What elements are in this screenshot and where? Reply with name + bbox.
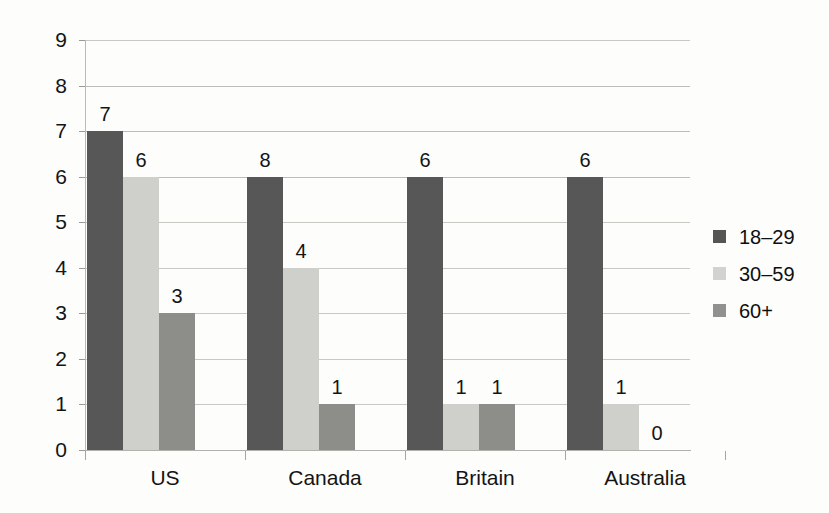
bar <box>123 177 159 450</box>
y-axis-label: 9 <box>27 29 67 50</box>
bar <box>247 177 283 450</box>
x-axis-label: Britain <box>405 466 565 490</box>
legend-label: 30–59 <box>739 264 795 284</box>
bar <box>283 268 319 450</box>
x-axis-tick <box>725 451 726 460</box>
x-axis-label: US <box>85 466 245 490</box>
legend-item: 18–29 <box>713 218 795 255</box>
bar <box>443 404 479 450</box>
bar <box>603 404 639 450</box>
y-axis-label: 4 <box>27 257 67 278</box>
legend-label: 60+ <box>739 301 773 321</box>
bar <box>87 131 123 450</box>
x-axis-line <box>85 450 691 451</box>
bar-value-label: 1 <box>479 377 515 397</box>
y-axis-label: 7 <box>27 120 67 141</box>
x-axis-tick <box>405 451 406 460</box>
bar <box>407 177 443 450</box>
bar-value-label: 1 <box>319 377 355 397</box>
bar-value-label: 0 <box>639 423 675 443</box>
bar-value-label: 7 <box>87 104 123 124</box>
x-axis-tick <box>245 451 246 460</box>
x-axis-label: Australia <box>565 466 725 490</box>
bar-value-label: 6 <box>567 150 603 170</box>
y-axis-label: 6 <box>27 166 67 187</box>
legend-label: 18–29 <box>739 227 795 247</box>
bar <box>319 404 355 450</box>
bar-chart: 0123456789 763841611610 USCanadaBritainA… <box>0 0 829 513</box>
legend-swatch-icon <box>713 230 726 243</box>
x-axis-tick <box>565 451 566 460</box>
bar-value-label: 4 <box>283 241 319 261</box>
bar-value-label: 8 <box>247 150 283 170</box>
bar <box>479 404 515 450</box>
bar-value-label: 3 <box>159 286 195 306</box>
chart-legend: 18–2930–5960+ <box>713 218 795 329</box>
bar <box>567 177 603 450</box>
y-axis-label: 2 <box>27 348 67 369</box>
bar <box>159 313 195 450</box>
x-axis-tick <box>85 451 86 460</box>
legend-item: 60+ <box>713 292 795 329</box>
bar-value-label: 1 <box>443 377 479 397</box>
y-axis-label: 3 <box>27 302 67 323</box>
y-axis-label: 1 <box>27 393 67 414</box>
x-axis-label: Canada <box>245 466 405 490</box>
y-axis-label: 0 <box>27 439 67 460</box>
y-axis-label: 5 <box>27 211 67 232</box>
bar-value-label: 6 <box>407 150 443 170</box>
legend-swatch-icon <box>713 267 726 280</box>
legend-item: 30–59 <box>713 255 795 292</box>
y-axis-label: 8 <box>27 75 67 96</box>
bar-value-label: 1 <box>603 377 639 397</box>
plot-area: 763841611610 <box>85 40 690 450</box>
bar-value-label: 6 <box>123 150 159 170</box>
legend-swatch-icon <box>713 304 726 317</box>
